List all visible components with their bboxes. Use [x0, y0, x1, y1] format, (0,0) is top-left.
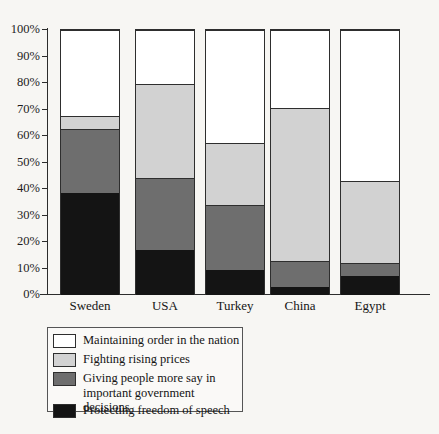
legend-label: Fighting rising prices: [83, 352, 190, 367]
legend-swatch-icon: [53, 404, 76, 418]
legend-item: Fighting rising prices: [53, 352, 190, 367]
y-tick-label: 100%: [0, 23, 40, 35]
legend-swatch-icon: [53, 334, 76, 348]
y-tick-label-wrap: 50%: [0, 156, 40, 168]
y-tick-label-wrap: 80%: [0, 76, 40, 88]
y-tick-label-wrap: 70%: [0, 103, 40, 115]
y-tick-label: 90%: [0, 50, 40, 62]
legend-item: Maintaining order in the nation: [53, 333, 239, 348]
y-tick-label: 40%: [0, 182, 40, 194]
y-tick-label: 60%: [0, 129, 40, 141]
y-tick-label-wrap: 30%: [0, 209, 40, 221]
y-tick-label-wrap: 60%: [0, 129, 40, 141]
bar-segment: [206, 270, 265, 295]
bar-segment: [341, 276, 400, 295]
bar-segment: [61, 129, 120, 193]
stacked-bar-chart: 0%10%20%30%40%50%60%70%80%90%100% Sweden…: [0, 0, 439, 434]
y-tick-label-wrap: 10%: [0, 262, 40, 274]
bar-usa: [135, 29, 195, 294]
y-tick-label: 50%: [0, 156, 40, 168]
y-tick-label-wrap: 20%: [0, 235, 40, 247]
bar-segment: [61, 193, 120, 295]
y-tick-label-wrap: 40%: [0, 182, 40, 194]
plot-area: [47, 29, 419, 294]
bar-segment: [206, 30, 265, 143]
y-tick-label-wrap: 0%: [0, 288, 40, 300]
bar-sweden: [60, 29, 120, 294]
bar-segment: [61, 116, 120, 129]
bar-segment: [271, 261, 330, 288]
bar-segment: [271, 108, 330, 260]
bar-egypt: [340, 29, 400, 294]
bar-segment: [271, 30, 330, 108]
y-tick-label: 80%: [0, 76, 40, 88]
legend-swatch-icon: [53, 353, 76, 367]
y-tick-label-wrap: 90%: [0, 50, 40, 62]
y-tick-label: 70%: [0, 103, 40, 115]
y-tick-label: 20%: [0, 235, 40, 247]
bar-segment: [136, 84, 195, 178]
bar-segment: [206, 143, 265, 205]
bar-segment: [341, 181, 400, 263]
bar-segment: [341, 263, 400, 276]
legend-item: Protecting freedom of speech: [53, 403, 230, 418]
bar-segment: [136, 30, 195, 84]
bar-segment: [136, 250, 195, 295]
bar-segment: [341, 30, 400, 181]
y-tick-label: 10%: [0, 262, 40, 274]
y-tick-label-wrap: 100%: [0, 23, 40, 35]
y-tick-mark: [42, 294, 48, 295]
category-label-egypt: Egypt: [325, 298, 415, 313]
y-tick-label: 30%: [0, 209, 40, 221]
bar-turkey: [205, 29, 265, 294]
bar-segment: [61, 30, 120, 116]
legend-swatch-icon: [53, 372, 76, 386]
legend-label: Protecting freedom of speech: [83, 403, 230, 418]
y-tick-label: 0%: [0, 288, 40, 300]
chart-legend: Maintaining order in the nationFighting …: [47, 327, 243, 412]
bar-segment: [136, 178, 195, 250]
bar-segment: [271, 287, 330, 295]
bar-china: [270, 29, 330, 294]
legend-label: Maintaining order in the nation: [83, 333, 239, 348]
bar-segment: [206, 205, 265, 270]
